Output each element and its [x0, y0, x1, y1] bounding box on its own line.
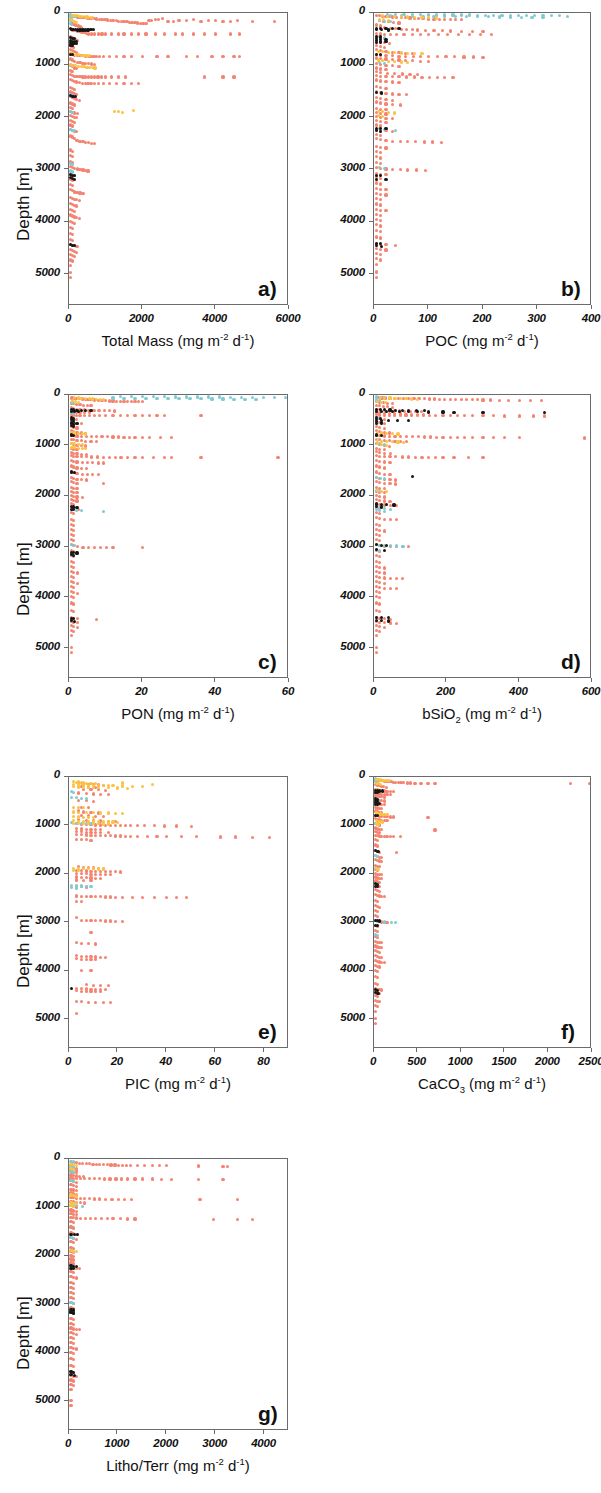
data-point: [110, 1198, 113, 1201]
data-point: [75, 1276, 78, 1279]
data-point: [98, 1163, 101, 1166]
y-tick-label: 5000: [10, 1393, 60, 1405]
data-point: [136, 1164, 139, 1167]
data-point: [72, 1384, 75, 1387]
data-point: [93, 1197, 96, 1200]
data-point: [72, 1292, 75, 1295]
data-point: [81, 1205, 84, 1208]
data-point: [72, 1287, 75, 1290]
data-point: [108, 1177, 111, 1180]
data-point: [197, 1164, 200, 1167]
data-point: [84, 1217, 87, 1220]
x-tick-mark: [214, 1430, 215, 1434]
data-point: [69, 1399, 72, 1402]
data-point: [111, 1217, 114, 1220]
data-point: [151, 1164, 154, 1167]
y-axis-label-g: Depth [m]: [14, 1296, 34, 1370]
data-point: [72, 1302, 75, 1305]
data-point: [72, 1342, 75, 1345]
panel-letter-g: g): [258, 1402, 278, 1426]
data-point: [226, 1165, 229, 1168]
data-point: [251, 1218, 254, 1221]
data-point: [109, 1163, 112, 1166]
y-tick-mark: [64, 1400, 68, 1401]
data-point: [125, 1164, 128, 1167]
data-point: [72, 1297, 75, 1300]
data-point: [72, 1221, 75, 1224]
multi-panel-scatter-figure: 0100020003000400050000200040006000Total …: [0, 0, 601, 1493]
data-point: [83, 1197, 86, 1200]
data-point: [117, 1198, 120, 1201]
data-point: [221, 1178, 224, 1181]
data-point: [121, 1164, 124, 1167]
data-point: [126, 1217, 129, 1220]
y-tick-mark: [64, 1255, 68, 1256]
data-point: [69, 1404, 72, 1407]
data-point: [160, 1178, 163, 1181]
data-point: [75, 1250, 78, 1253]
data-point: [75, 1164, 78, 1167]
data-point: [72, 1171, 75, 1174]
x-axis-label-g: Litho/Terr (mg m-2 d-1): [28, 1456, 328, 1474]
data-point: [72, 1241, 75, 1244]
data-point: [79, 1197, 82, 1200]
data-point: [73, 1374, 76, 1377]
data-point: [72, 1337, 75, 1340]
data-point: [119, 1217, 122, 1220]
data-point: [83, 1201, 86, 1204]
data-point: [72, 1311, 75, 1314]
panel-g: 01000200030004000500001000200030004000Li…: [0, 0, 601, 1493]
data-point: [117, 1164, 120, 1167]
data-point: [141, 1177, 144, 1180]
data-canvas-g: [69, 1159, 287, 1429]
data-point: [94, 1217, 97, 1220]
data-point: [106, 1217, 109, 1220]
data-point: [165, 1164, 168, 1167]
data-point: [103, 1177, 106, 1180]
data-point: [79, 1201, 82, 1204]
data-point: [76, 1233, 79, 1236]
data-point: [113, 1163, 116, 1166]
data-point: [81, 1162, 84, 1165]
data-point: [72, 1379, 75, 1382]
data-point: [158, 1164, 161, 1167]
y-tick-label: 0: [10, 1150, 60, 1162]
y-tick-label: 1000: [10, 1199, 60, 1211]
data-point: [78, 1328, 81, 1331]
x-tick-mark: [68, 1430, 69, 1434]
data-point: [75, 1238, 78, 1241]
data-point: [75, 1181, 78, 1184]
data-point: [72, 1318, 75, 1321]
data-point: [88, 1177, 91, 1180]
x-tick-mark: [165, 1430, 166, 1434]
x-tick-mark: [116, 1430, 117, 1434]
data-point: [100, 1217, 103, 1220]
data-point: [69, 1388, 72, 1391]
data-point: [72, 1358, 75, 1361]
data-point: [129, 1164, 132, 1167]
data-point: [75, 1333, 78, 1336]
data-point: [130, 1198, 133, 1201]
data-point: [114, 1177, 117, 1180]
data-point: [72, 1365, 75, 1368]
data-point: [98, 1197, 101, 1200]
y-tick-mark: [64, 1206, 68, 1207]
data-point: [75, 1347, 78, 1350]
data-point: [72, 1323, 75, 1326]
data-point: [75, 1216, 78, 1219]
data-point: [133, 1177, 136, 1180]
data-point: [75, 1177, 78, 1180]
data-point: [120, 1177, 123, 1180]
data-point: [102, 1163, 105, 1166]
data-point: [151, 1177, 154, 1180]
data-point: [98, 1177, 101, 1180]
data-point: [72, 1168, 75, 1171]
data-point: [72, 1282, 75, 1285]
data-point: [72, 1271, 75, 1274]
data-point: [197, 1178, 200, 1181]
y-tick-mark: [64, 1352, 68, 1353]
x-tick-mark: [263, 1430, 264, 1434]
data-point: [93, 1177, 96, 1180]
data-point: [221, 1165, 224, 1168]
data-point: [72, 1352, 75, 1355]
